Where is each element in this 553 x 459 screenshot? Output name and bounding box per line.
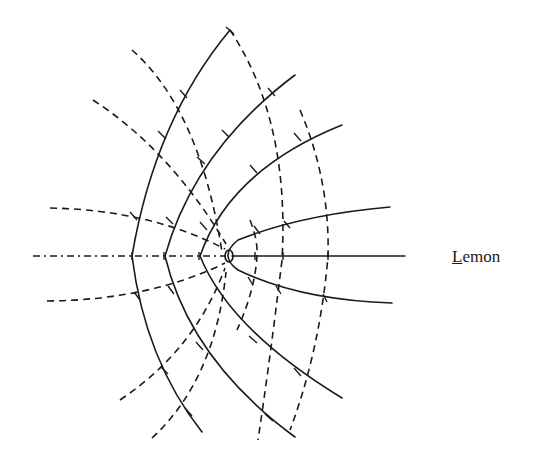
dashed-curve-right-2 [290, 110, 328, 430]
label-underlined-initial: L [452, 247, 462, 266]
diagram-canvas: Lemon [0, 0, 553, 459]
dashed-curve-lower-mid [120, 268, 225, 400]
diagram-label: Lemon [452, 247, 500, 267]
solid-arc-inner [228, 207, 392, 303]
lemon-coordinate-diagram [0, 0, 553, 459]
dashed-curve-upper-mid [93, 100, 226, 244]
label-rest: emon [462, 247, 500, 266]
solid-arc-3 [200, 125, 342, 398]
